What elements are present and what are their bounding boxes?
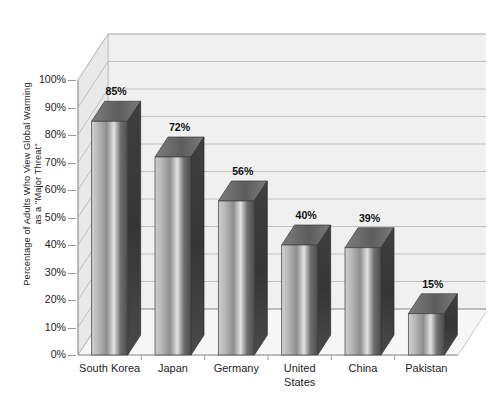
y-tick-label-40: 40% — [20, 238, 66, 250]
chart-figure: Percentage of Adults Who View Global War… — [0, 0, 502, 414]
bar-side-face — [318, 225, 331, 355]
bar-value-label: 15% — [403, 278, 463, 290]
y-tick-label-60: 60% — [20, 183, 66, 195]
bar-side-face — [191, 137, 204, 355]
bar-value-label: 56% — [213, 165, 273, 177]
y-axis-tick-labels: 0%10%20%30%40%50%60%70%80%90%100% — [20, 0, 66, 414]
chart-canvas — [66, 14, 486, 364]
y-tick-label-30: 30% — [20, 266, 66, 278]
y-tick-label-100: 100% — [20, 73, 66, 85]
bar-4 — [345, 228, 394, 355]
y-tick-label-70: 70% — [20, 156, 66, 168]
bar-side-face — [128, 101, 141, 355]
y-tick-label-90: 90% — [20, 101, 66, 113]
bar-value-label: 39% — [340, 212, 400, 224]
y-tick-label-20: 20% — [20, 293, 66, 305]
y-tick-label-0: 0% — [20, 348, 66, 360]
y-tick-label-80: 80% — [20, 128, 66, 140]
y-tick-label-10: 10% — [20, 321, 66, 333]
bar-value-label: 72% — [150, 121, 210, 133]
bar-front-face — [92, 121, 128, 355]
bar-front-face — [155, 157, 191, 355]
x-axis-label-5: Pakistan — [395, 362, 458, 376]
bar-3 — [282, 225, 331, 355]
bar-1 — [155, 137, 204, 355]
bar-value-label: 85% — [86, 85, 146, 97]
bar-front-face — [282, 245, 318, 355]
bar-front-face — [408, 314, 444, 355]
x-axis-label-4: China — [331, 362, 394, 376]
y-tick-label-50: 50% — [20, 211, 66, 223]
bar-5 — [408, 294, 457, 355]
bar-2 — [218, 181, 267, 355]
bar-0 — [92, 101, 141, 355]
bar-side-face — [381, 228, 394, 355]
plot-area — [66, 14, 486, 364]
bar-front-face — [345, 248, 381, 355]
bar-front-face — [218, 201, 254, 355]
bar-value-label: 40% — [276, 209, 336, 221]
x-axis-label-2: Germany — [205, 362, 268, 376]
x-axis-label-3: United States — [268, 362, 331, 389]
x-axis-label-0: South Korea — [78, 362, 141, 376]
x-axis-category-labels: South KoreaJapanGermanyUnited StatesChin… — [66, 362, 486, 412]
bar-side-face — [254, 181, 267, 355]
x-axis-label-1: Japan — [141, 362, 204, 376]
